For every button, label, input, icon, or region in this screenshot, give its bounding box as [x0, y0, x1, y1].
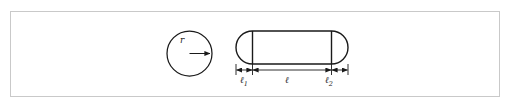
dimension-label-l2-subscript: 2 [329, 80, 333, 88]
dimension-label-l-base: ℓ [285, 75, 289, 85]
capsule-shape-group [236, 31, 348, 64]
dimension-label-l1: ℓ1 [240, 76, 248, 87]
figure-drawing-canvas [0, 0, 512, 110]
radius-label: r [180, 36, 184, 45]
dimension-label-l2: ℓ2 [325, 76, 333, 87]
dimension-label-l: ℓ [285, 76, 289, 85]
dimension-label-l1-subscript: 1 [244, 80, 248, 88]
figure-root: r ℓ1 ℓ ℓ2 [0, 0, 512, 110]
circle-shape-group [167, 31, 212, 76]
dimension-line-group [236, 64, 348, 75]
